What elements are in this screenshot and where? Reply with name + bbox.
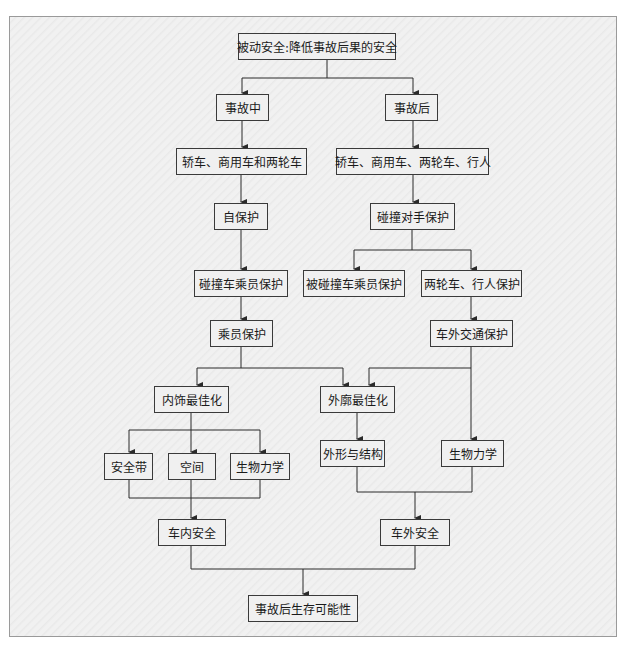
node-struck-occupant-protection: 被碰撞车乘员保护 xyxy=(303,270,405,297)
node-inside-vehicle-safety: 车内安全 xyxy=(158,519,226,546)
node-label: 碰撞车乘员保护 xyxy=(199,275,283,292)
node-vehicles-right: 轿车、商用车、两轮车、行人 xyxy=(336,148,489,175)
node-exterior-optimization: 外廓最佳化 xyxy=(320,386,395,413)
node-space: 空间 xyxy=(168,453,216,480)
node-occupant-protection: 乘员保护 xyxy=(210,320,273,347)
node-interior-optimization: 内饰最佳化 xyxy=(154,386,229,413)
node-label: 外廓最佳化 xyxy=(328,391,388,408)
node-occupant-crash-protection: 碰撞车乘员保护 xyxy=(194,270,288,297)
node-twowheel-pedestrian-protection: 两轮车、行人保护 xyxy=(421,270,522,297)
node-seatbelt: 安全带 xyxy=(104,453,153,480)
node-label: 空间 xyxy=(180,458,204,475)
node-during-accident: 事故中 xyxy=(216,94,269,121)
node-partner-protection: 碰撞对手保护 xyxy=(370,203,455,230)
node-biomechanics-right: 生物力学 xyxy=(441,440,504,467)
node-label: 外形与结构 xyxy=(323,445,383,462)
node-after-accident: 事故后 xyxy=(385,94,438,121)
node-label: 车外交通保护 xyxy=(436,325,508,342)
node-label: 事故后 xyxy=(394,99,430,116)
node-label: 两轮车、行人保护 xyxy=(424,275,520,292)
node-label: 安全带 xyxy=(111,458,147,475)
node-label: 事故后生存可能性 xyxy=(255,600,351,617)
node-outside-vehicle-safety: 车外安全 xyxy=(380,519,450,546)
node-self-protection: 自保护 xyxy=(214,203,268,230)
node-post-accident-survival: 事故后生存可能性 xyxy=(248,595,358,622)
node-label: 碰撞对手保护 xyxy=(377,208,449,225)
connector-lines xyxy=(0,0,626,647)
node-vehicles-left: 轿车、商用车和两轮车 xyxy=(176,148,307,175)
node-label: 轿车、商用车和两轮车 xyxy=(182,153,302,170)
node-label: 内饰最佳化 xyxy=(162,391,222,408)
node-label: 车内安全 xyxy=(168,524,216,541)
node-biomechanics-left: 生物力学 xyxy=(230,453,290,480)
node-shape-structure: 外形与结构 xyxy=(320,440,385,467)
node-label: 轿车、商用车、两轮车、行人 xyxy=(335,153,491,170)
node-label: 自保护 xyxy=(223,208,259,225)
node-label: 生物力学 xyxy=(449,445,497,462)
node-external-traffic-protection: 车外交通保护 xyxy=(430,320,513,347)
node-label: 车外安全 xyxy=(391,524,439,541)
node-label: 乘员保护 xyxy=(218,325,266,342)
node-label: 被动安全:降低事故后果的安全 xyxy=(237,38,397,55)
node-label: 生物力学 xyxy=(236,458,284,475)
node-label: 事故中 xyxy=(225,99,261,116)
node-passive-safety-root: 被动安全:降低事故后果的安全 xyxy=(238,33,396,60)
node-label: 被碰撞车乘员保护 xyxy=(306,275,402,292)
